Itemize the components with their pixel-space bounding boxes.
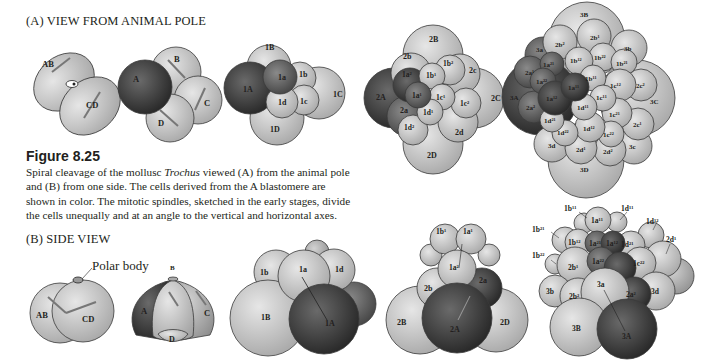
svg-text:1c¹: 1c¹ (436, 93, 445, 102)
svg-text:1d²¹: 1d²¹ (544, 117, 556, 125)
stage-b-late: 1b¹¹ 1d¹¹ 1d¹² 2d¹ 1b²¹ 1a¹¹ 1b¹² 1a²¹ 1… (532, 204, 694, 359)
svg-text:CD: CD (82, 314, 94, 324)
svg-text:2b: 2b (424, 284, 433, 293)
svg-text:2a²: 2a² (626, 290, 637, 299)
svg-text:3b: 3b (624, 45, 632, 53)
svg-text:D: D (169, 335, 175, 344)
svg-text:1c²²: 1c²² (633, 259, 645, 268)
svg-text:1a²²: 1a²² (536, 78, 547, 86)
svg-text:1B: 1B (265, 43, 275, 52)
svg-text:2b¹: 2b¹ (590, 34, 600, 42)
stage-b-4cell: B A C D (132, 264, 214, 344)
svg-text:B: B (174, 54, 180, 64)
svg-text:D: D (158, 118, 164, 128)
svg-text:1a¹²: 1a¹² (546, 95, 557, 103)
svg-text:1c²²: 1c²² (603, 131, 614, 139)
svg-text:2a²: 2a² (526, 104, 535, 112)
svg-text:2c: 2c (469, 66, 477, 75)
svg-text:1a: 1a (278, 73, 286, 82)
svg-text:2C: 2C (491, 94, 501, 103)
svg-text:1D: 1D (270, 125, 280, 134)
svg-text:1d: 1d (278, 98, 287, 107)
svg-text:1d¹²: 1d¹² (646, 217, 659, 226)
svg-text:1d¹¹: 1d¹¹ (577, 104, 589, 112)
svg-text:1C: 1C (333, 90, 343, 99)
svg-text:1a¹¹: 1a¹¹ (591, 216, 603, 225)
svg-text:B: B (170, 264, 175, 272)
svg-text:2a¹: 2a¹ (525, 69, 534, 77)
svg-text:3b: 3b (546, 287, 554, 296)
svg-text:1A: 1A (325, 319, 335, 328)
svg-text:1b²¹: 1b²¹ (616, 60, 628, 68)
cell-2A (422, 283, 492, 353)
svg-text:1b¹²: 1b¹² (570, 57, 582, 65)
svg-text:3d: 3d (651, 287, 660, 296)
svg-text:C: C (204, 98, 210, 108)
svg-text:1B: 1B (261, 313, 271, 322)
svg-text:2A: 2A (450, 325, 460, 334)
svg-text:2b¹: 2b¹ (568, 263, 578, 272)
svg-text:2D: 2D (500, 318, 510, 327)
svg-text:1c²: 1c² (460, 99, 470, 108)
svg-text:1d²²: 1d²² (557, 129, 569, 137)
stage-a-late: 3B 2b² 2b¹ 3b 3a 1b¹² 1b²² 1b²¹ 1a²¹ 2a¹… (502, 2, 675, 198)
svg-text:1b¹¹: 1b¹¹ (585, 75, 597, 83)
svg-text:1d¹: 1d¹ (423, 108, 433, 117)
svg-text:AB: AB (36, 310, 48, 320)
svg-text:1a²: 1a² (402, 70, 413, 79)
svg-text:1d¹¹: 1d¹¹ (621, 204, 633, 213)
svg-text:1d²¹: 1d²¹ (621, 240, 633, 249)
svg-text:1a¹: 1a¹ (412, 91, 422, 100)
svg-text:1b²¹: 1b²¹ (532, 225, 544, 234)
svg-text:1d²: 1d² (404, 123, 415, 132)
svg-text:3A: 3A (510, 94, 519, 102)
stage-a-16cell: 2B 2b 2c 2A 2a 2C 2d 2D 1a² 1b² 1b¹ 1a¹ … (364, 25, 504, 174)
svg-text:1c²¹: 1c²¹ (609, 111, 620, 119)
svg-text:3a: 3a (536, 46, 544, 54)
svg-text:1b¹: 1b¹ (436, 227, 446, 236)
svg-text:2b²: 2b² (555, 41, 565, 49)
svg-text:2d¹: 2d¹ (666, 235, 676, 244)
svg-text:3A: 3A (622, 332, 632, 341)
svg-text:1A: 1A (243, 85, 253, 94)
svg-text:2a: 2a (400, 106, 408, 115)
svg-text:C: C (204, 308, 210, 318)
svg-text:1b²²: 1b²² (594, 54, 606, 62)
cell-3A (597, 299, 657, 359)
svg-text:1b: 1b (260, 268, 269, 277)
polar-body-icon (73, 277, 83, 283)
svg-text:1b¹¹: 1b¹¹ (564, 204, 576, 213)
stage-b-2cell: AB CD (30, 268, 114, 343)
svg-text:2d: 2d (455, 128, 464, 137)
svg-text:3c: 3c (629, 143, 636, 151)
svg-text:2B: 2B (397, 318, 407, 327)
svg-text:1a: 1a (299, 265, 307, 274)
svg-text:1a¹: 1a¹ (463, 227, 473, 236)
svg-text:1c: 1c (300, 97, 308, 106)
svg-text:2d²: 2d² (603, 148, 613, 156)
svg-text:1d¹²: 1d¹² (583, 125, 595, 133)
svg-text:A: A (141, 306, 148, 316)
svg-text:1b: 1b (299, 70, 308, 79)
svg-text:3B: 3B (572, 324, 581, 333)
cleavage-diagram: AB CD B A C D 1B 1A (0, 0, 710, 362)
svg-text:1c¹¹: 1c¹¹ (596, 94, 607, 102)
svg-text:1c¹²: 1c¹² (610, 82, 621, 90)
polar-body-icon (66, 81, 78, 88)
svg-text:1b²²: 1b²² (532, 251, 545, 260)
svg-text:3a: 3a (597, 280, 605, 289)
svg-text:CD: CD (86, 100, 98, 110)
cell-CD (52, 280, 114, 342)
stage-a-2cell: AB CD (22, 41, 132, 147)
svg-text:1a²: 1a² (449, 263, 460, 272)
svg-text:2d¹: 2d¹ (576, 146, 586, 154)
svg-text:1a¹²: 1a¹² (606, 239, 619, 248)
stage-b-8cell: 1b 1a 1d 1B 1A (230, 240, 376, 356)
svg-text:1a¹¹: 1a¹¹ (568, 84, 579, 92)
svg-text:2c²: 2c² (636, 82, 645, 90)
svg-text:3B: 3B (580, 11, 589, 19)
svg-text:1b²: 1b² (443, 59, 454, 68)
svg-text:AB: AB (42, 59, 54, 69)
svg-text:1a²²: 1a²² (592, 257, 605, 266)
stage-b-16cell: 1b¹ 1a¹ 1a² 2b 2a 2B 2A 2D (386, 224, 528, 354)
